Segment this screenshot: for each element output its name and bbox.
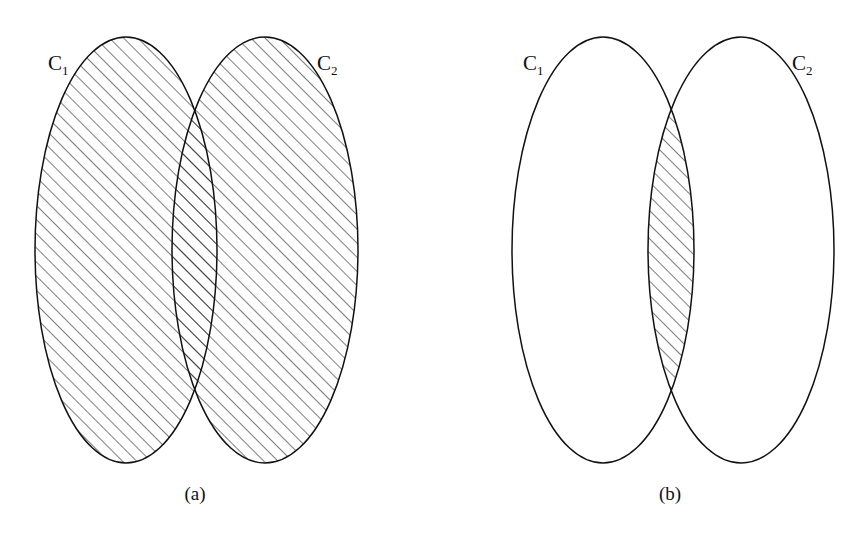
caption-a: (a) bbox=[184, 483, 205, 505]
caption-b: (b) bbox=[659, 483, 681, 505]
label-c2: C2 bbox=[317, 51, 338, 78]
panel-a: C1 C2 (a) bbox=[35, 37, 358, 505]
panel-b: C1 C2 (b) bbox=[512, 37, 834, 505]
label-c2: C2 bbox=[792, 51, 813, 78]
venn-figure: C1 C2 (a) C1 C2 (b) bbox=[0, 0, 846, 539]
set-c2-ellipse bbox=[172, 37, 358, 463]
label-c1: C1 bbox=[523, 51, 544, 78]
label-c1: C1 bbox=[48, 51, 69, 78]
intersection-region bbox=[648, 37, 834, 463]
